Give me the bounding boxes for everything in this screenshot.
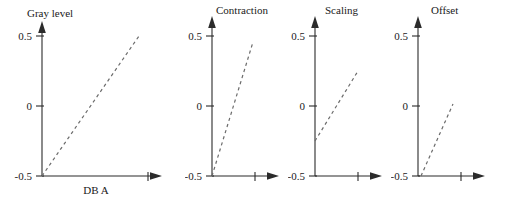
panel-title-gray-level: Gray level xyxy=(27,7,73,19)
y-tick-label-middle: 0 xyxy=(27,100,33,112)
y-axis-arrowhead xyxy=(414,16,422,28)
y-tick-label-upper: 0.5 xyxy=(291,30,305,42)
chart-svg-contraction: 0.5 0 -0.5 Contraction xyxy=(185,0,288,202)
y-tick-label-lower: -0.5 xyxy=(15,170,33,182)
chart-panel-gray-level: 0.5 0 -0.5 Gray level DB A xyxy=(0,0,185,202)
x-axis-arrowhead xyxy=(267,172,279,180)
chart-panel-offset: 0.5 0 -0.5 Offset xyxy=(391,0,515,202)
data-line-scaling xyxy=(315,71,358,141)
chart-svg-scaling: 0.5 0 -0.5 Scaling xyxy=(288,0,391,202)
data-line-identity xyxy=(42,36,139,176)
x-axis-label-db-a: DB A xyxy=(83,184,108,196)
y-tick-label-middle: 0 xyxy=(403,100,409,112)
y-tick-label-lower: -0.5 xyxy=(185,170,202,182)
data-line-contraction xyxy=(212,42,253,176)
y-tick-label-lower: -0.5 xyxy=(288,170,305,182)
chart-panel-contraction: 0.5 0 -0.5 Contraction xyxy=(185,0,288,202)
chart-svg-gray-level: 0.5 0 -0.5 Gray level DB A xyxy=(0,0,185,202)
y-tick-label-lower: -0.5 xyxy=(391,170,408,182)
panel-title-scaling: Scaling xyxy=(325,4,358,16)
x-axis-arrowhead xyxy=(370,172,382,180)
y-axis-arrowhead xyxy=(311,16,319,28)
x-axis-arrowhead xyxy=(473,172,485,180)
y-axis-arrowhead xyxy=(38,21,46,33)
panel-title-contraction: Contraction xyxy=(216,4,268,16)
x-axis-arrowhead xyxy=(150,172,162,180)
y-tick-label-upper: 0.5 xyxy=(394,30,408,42)
chart-svg-offset: 0.5 0 -0.5 Offset xyxy=(391,0,515,202)
panel-title-offset: Offset xyxy=(431,4,458,16)
data-line-offset xyxy=(421,104,453,176)
y-tick-label-middle: 0 xyxy=(300,100,306,112)
y-tick-label-upper: 0.5 xyxy=(188,30,202,42)
y-tick-label-upper: 0.5 xyxy=(18,30,32,42)
y-tick-label-middle: 0 xyxy=(197,100,203,112)
y-axis-arrowhead xyxy=(208,16,216,28)
figure-container: 0.5 0 -0.5 Gray level DB A 0.5 0 -0.5 Co… xyxy=(0,0,515,202)
chart-panel-scaling: 0.5 0 -0.5 Scaling xyxy=(288,0,391,202)
